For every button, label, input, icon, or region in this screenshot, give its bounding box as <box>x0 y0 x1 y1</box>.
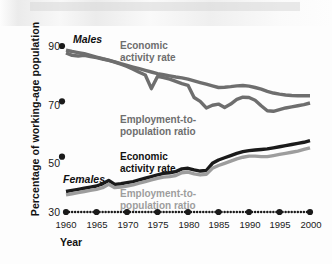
x-axis-minor-dot <box>233 211 236 214</box>
x-axis-minor-dot <box>89 211 92 214</box>
x-axis-minor-dot <box>104 211 107 214</box>
x-axis-minor-dot <box>132 211 135 214</box>
series-line-3 <box>66 148 310 195</box>
series-line-2 <box>66 141 310 192</box>
x-axis-minor-dot <box>284 211 287 214</box>
series-lines <box>66 50 310 195</box>
y-axis-tick-dot-70 <box>59 98 65 104</box>
x-axis-minor-dot <box>290 211 293 214</box>
x-axis-minor-dot <box>294 211 297 214</box>
x-axis-minor-dot <box>111 211 114 214</box>
x-axis-minor-dot <box>141 211 144 214</box>
x-axis-minor-dot <box>86 211 89 214</box>
x-axis-minor-dot <box>165 211 168 214</box>
x-axis-minor-dot <box>272 211 275 214</box>
x-axis-minor-dot <box>236 211 239 214</box>
x-axis-minor-dot <box>181 211 184 214</box>
x-axis-minor-dot <box>205 211 208 214</box>
x-axis-minor-dot <box>257 211 260 214</box>
x-axis-minor-dot <box>220 211 223 214</box>
y-axis-tick-dots <box>59 43 65 160</box>
x-axis-minor-dot <box>281 211 284 214</box>
x-axis-minor-dot <box>208 211 211 214</box>
x-axis-minor-dot <box>168 211 171 214</box>
x-axis-minor-dot <box>223 211 226 214</box>
x-axis-major-dot <box>307 209 313 215</box>
x-axis-minor-dot <box>190 211 193 214</box>
x-axis-minor-dot <box>68 211 71 214</box>
y-axis-tick-dot-90 <box>59 43 65 49</box>
x-axis-minor-dot <box>300 211 303 214</box>
x-axis-minor-dot <box>172 211 175 214</box>
x-axis-minor-dot <box>229 211 232 214</box>
x-axis-minor-dot <box>80 211 83 214</box>
x-axis-minor-dot <box>114 211 117 214</box>
x-axis-minor-dot <box>117 211 120 214</box>
x-axis-minor-dot <box>101 211 104 214</box>
x-axis-minor-dot <box>120 211 123 214</box>
x-axis-minor-dot <box>135 211 138 214</box>
x-axis-minor-dot <box>162 211 165 214</box>
x-axis-minor-dot <box>297 211 300 214</box>
series-line-1 <box>66 53 310 111</box>
x-axis-minor-dot <box>83 211 86 214</box>
x-axis-minor-dot <box>303 211 306 214</box>
x-axis-minor-dot <box>107 211 110 214</box>
x-axis-minor-dot <box>175 211 178 214</box>
x-axis-minor-dot <box>254 211 257 214</box>
x-axis-minor-dot <box>287 211 290 214</box>
x-axis-minor-dot <box>269 211 272 214</box>
x-axis-minor-dot <box>77 211 80 214</box>
x-axis-minor-dot <box>251 211 254 214</box>
x-axis-minor-dot <box>150 211 153 214</box>
x-axis-minor-dot <box>138 211 141 214</box>
x-axis-minor-dot <box>260 211 263 214</box>
x-axis-minor-dot <box>129 211 132 214</box>
x-axis-minor-dot <box>196 211 199 214</box>
x-axis-minor-dot <box>144 211 147 214</box>
x-axis-minor-dot <box>211 211 214 214</box>
x-axis-minor-dot <box>71 211 74 214</box>
x-axis-minor-dot <box>263 211 266 214</box>
x-axis-minor-dot <box>178 211 181 214</box>
plot-area <box>0 0 332 264</box>
x-axis-minor-dot <box>266 211 269 214</box>
x-axis-minor-dot <box>242 211 245 214</box>
x-axis-minor-dot <box>226 211 229 214</box>
x-axis-minor-dot <box>199 211 202 214</box>
chart-figure: Percentage of working-age population Yea… <box>0 0 332 264</box>
x-axis-minor-dot <box>159 211 162 214</box>
y-axis-tick-dot-50 <box>59 154 65 160</box>
x-axis-minor-dot <box>239 211 242 214</box>
x-axis-minor-dot <box>147 211 150 214</box>
x-axis-minor-dot <box>74 211 77 214</box>
x-axis-minor-dot <box>193 211 196 214</box>
x-axis-minor-dot <box>98 211 101 214</box>
x-axis-dotted-line <box>63 209 313 215</box>
x-axis-minor-dot <box>202 211 205 214</box>
